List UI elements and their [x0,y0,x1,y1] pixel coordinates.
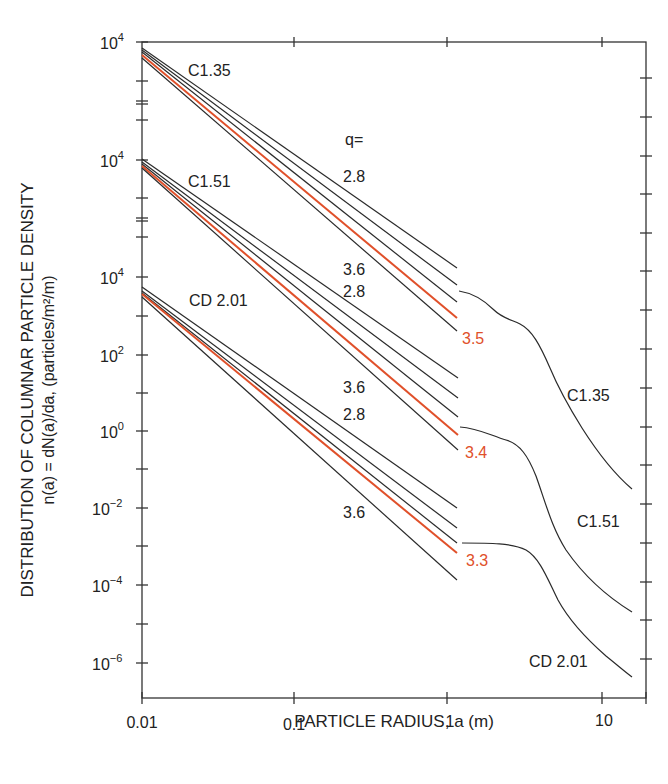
svg-text:100: 100 [100,420,124,441]
svg-text:10−6: 10−6 [92,652,122,673]
svg-text:CD 2.01: CD 2.01 [529,653,588,670]
plot-frame [142,42,646,698]
x-axis-ticks [142,37,646,704]
svg-text:3.3: 3.3 [466,552,488,569]
svg-text:2.8: 2.8 [343,168,365,185]
svg-text:10−4: 10−4 [92,574,122,595]
svg-text:104: 104 [100,31,124,52]
y-tick-labels: 104 104 104 102 100 10−2 10−4 10−6 [92,31,124,673]
svg-text:2.8: 2.8 [343,406,365,423]
svg-text:3.4: 3.4 [465,444,487,461]
svg-text:CD 2.01: CD 2.01 [189,292,248,309]
svg-text:C1.51: C1.51 [188,173,231,190]
svg-text:2.8: 2.8 [343,283,365,300]
svg-text:3.6: 3.6 [343,379,365,396]
svg-text:3.6: 3.6 [343,504,365,521]
svg-text:C1.35: C1.35 [188,62,231,79]
svg-text:3.5: 3.5 [462,330,484,347]
svg-text:104: 104 [100,266,124,287]
x-axis-title: PARTICLE RADIUS, a (m) [142,712,646,732]
svg-text:C1.51: C1.51 [577,513,620,530]
annotations: C1.35 C1.51 CD 2.01 q= 2.8 3.6 2.8 3.6 2… [188,62,620,670]
svg-text:C1.35: C1.35 [567,387,610,404]
svg-text:104: 104 [100,149,124,170]
svg-text:102: 102 [100,344,124,365]
svg-text:10−2: 10−2 [92,497,122,518]
series-family-c135 [142,48,632,489]
svg-text:3.6: 3.6 [343,261,365,278]
svg-text:q=: q= [345,131,363,148]
particle-size-distribution-chart: 104 104 104 102 100 10−2 10−4 10−6 0.01 … [0,0,668,784]
